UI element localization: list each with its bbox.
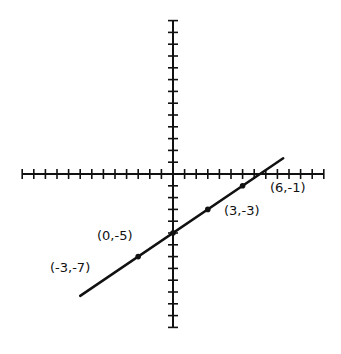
- point-label-0-neg5: (0,-5): [97, 228, 133, 243]
- axes: [22, 21, 324, 328]
- data-point: [205, 207, 211, 213]
- coordinate-plot: (-3,-7) (0,-5) (3,-3) (6,-1): [0, 0, 341, 354]
- point-label-6-neg1: (6,-1): [270, 180, 306, 195]
- data-point: [135, 254, 141, 260]
- point-label-3-neg3: (3,-3): [224, 203, 260, 218]
- data-point: [240, 183, 246, 189]
- point-label-neg3-neg7: (-3,-7): [50, 260, 90, 275]
- data-point: [170, 230, 176, 236]
